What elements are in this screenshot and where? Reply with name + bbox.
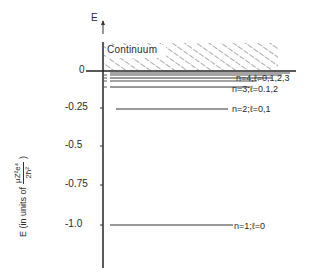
level-label-n1: n=1;ℓ=0	[234, 221, 265, 231]
e-axis-label: E	[91, 12, 98, 23]
level-ticks-near-zero	[104, 75, 107, 87]
level-label-n3: n=3;ℓ=0.1,2	[232, 84, 278, 94]
e-axis-arrow-icon	[101, 20, 105, 34]
level-label-n2: n=2;ℓ=0,1	[232, 104, 270, 114]
energy-level-diagram	[0, 0, 324, 278]
fraction-numerator: μZ²e⁴	[13, 162, 24, 184]
tick-label-neg0.75: -0.75	[65, 178, 88, 189]
tick-label-neg1.0: -1.0	[65, 218, 82, 229]
tick-label-neg0.25: -0.25	[65, 101, 88, 112]
level-label-n4: n=4,ℓ=0,1,2,3	[236, 73, 289, 83]
y-axis-label-suffix: )	[18, 156, 28, 159]
y-axis-label-prefix: E (in units of	[18, 187, 28, 237]
y-axis-label: E (in units of μZ²e⁴ 2ħ² )	[11, 67, 35, 237]
energy-levels	[110, 73, 290, 225]
y-axis-label-fraction: μZ²e⁴ 2ħ²	[13, 162, 34, 184]
fraction-denominator: 2ħ²	[24, 167, 34, 179]
tick-label-neg0.5: -0.5	[65, 139, 82, 150]
continuum-label: Continuum	[107, 44, 157, 55]
tick-label-0: 0	[79, 64, 85, 75]
